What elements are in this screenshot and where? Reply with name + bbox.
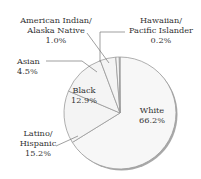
- label-american-indian: American Indian/ Alaska Native 1.0%: [18, 15, 94, 45]
- label-asian: Asian 4.5%: [17, 56, 40, 76]
- pie-chart: American Indian/ Alaska Native 1.0% Hawa…: [0, 0, 201, 179]
- label-latino: Latino/ Hispanic 15.2%: [18, 128, 58, 158]
- label-black: Black 12.9%: [68, 85, 100, 105]
- label-white: White 66.2%: [134, 105, 170, 125]
- label-hawaiian: Hawaiian/ Pacific Islander 0.2%: [126, 15, 196, 45]
